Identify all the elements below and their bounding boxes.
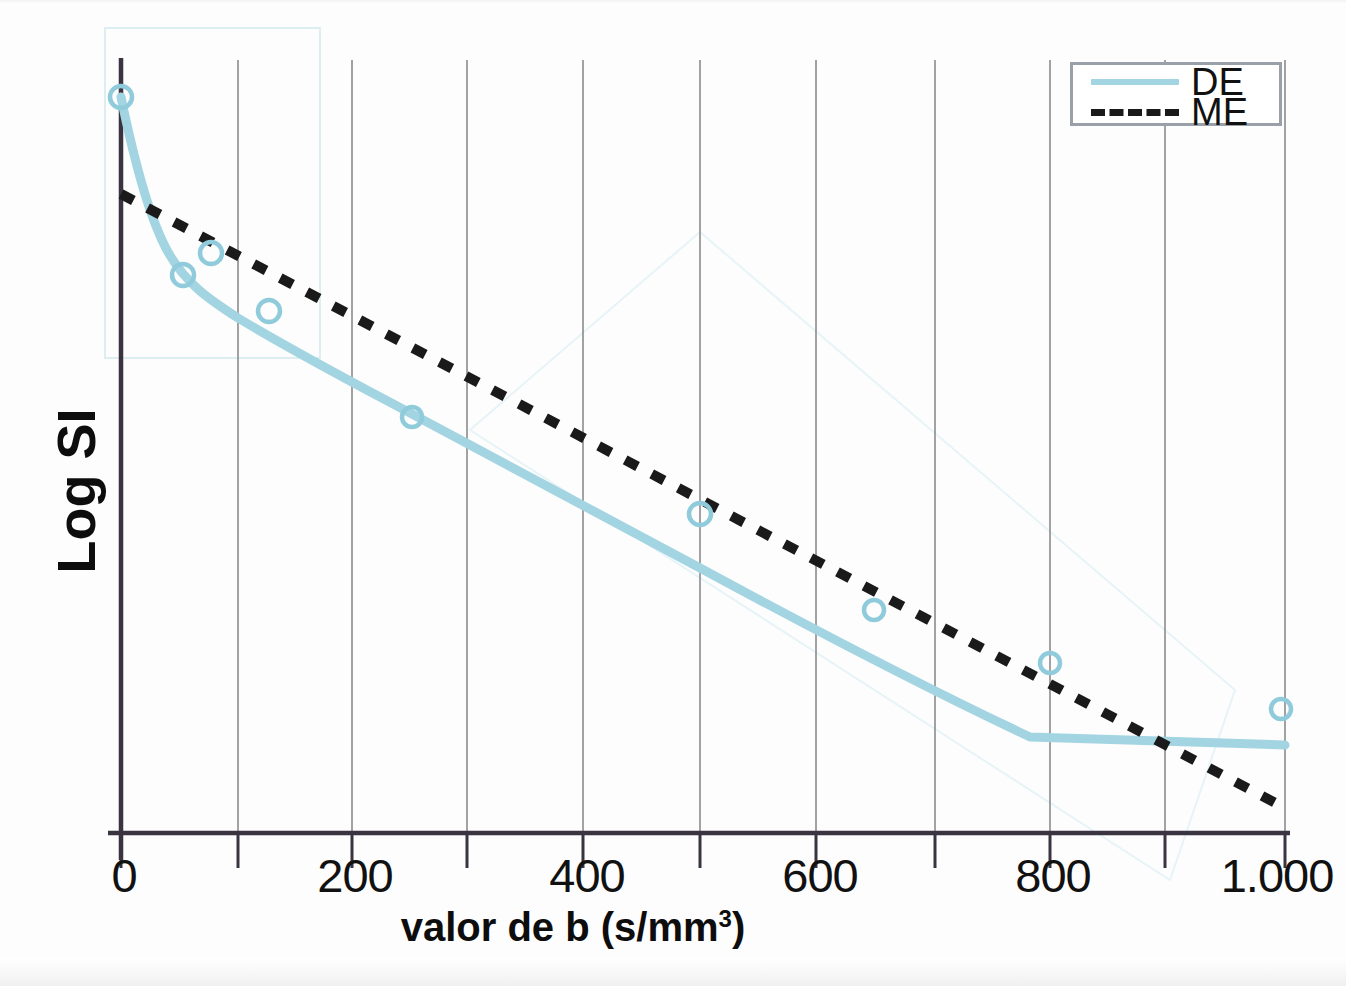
page-edge-bottom <box>0 958 1346 986</box>
series-line-de <box>121 97 1285 745</box>
x-tick-label-800: 800 <box>1015 848 1090 903</box>
chart-plot-area <box>0 0 1346 986</box>
data-point <box>258 300 280 322</box>
x-tick-label-200: 200 <box>317 848 392 903</box>
y-axis-title: Log SI <box>45 371 107 611</box>
x-tick-label-1000: 1.000 <box>1221 848 1334 903</box>
legend-label-me: ME <box>1191 93 1248 131</box>
x-tick-label-600: 600 <box>782 848 857 903</box>
legend-key-solid-line-icon <box>1085 79 1185 85</box>
x-axis-title-exponent: 3 <box>719 905 732 932</box>
legend-item-de: DE <box>1073 66 1279 98</box>
chart-legend: DE ME <box>1070 62 1282 126</box>
x-axis-title-main: valor de b (s/mm <box>401 905 719 949</box>
x-tick-label-400: 400 <box>549 848 624 903</box>
scan-artifact-rect-left <box>105 28 320 358</box>
legend-item-me: ME <box>1073 96 1279 128</box>
data-point <box>864 600 884 620</box>
scan-artifact-quad-right <box>470 232 1235 880</box>
series-line-me <box>121 194 1285 808</box>
data-point <box>1271 699 1291 719</box>
legend-key-dashed-line-icon <box>1085 109 1185 116</box>
x-axis-title-close: ) <box>732 905 745 949</box>
figure-canvas: 0 200 400 600 800 1.000 valor de b (s/mm… <box>0 0 1346 986</box>
x-axis-ticks <box>121 833 1285 868</box>
x-tick-label-0: 0 <box>111 848 136 903</box>
x-axis-title: valor de b (s/mm3) <box>401 905 746 950</box>
